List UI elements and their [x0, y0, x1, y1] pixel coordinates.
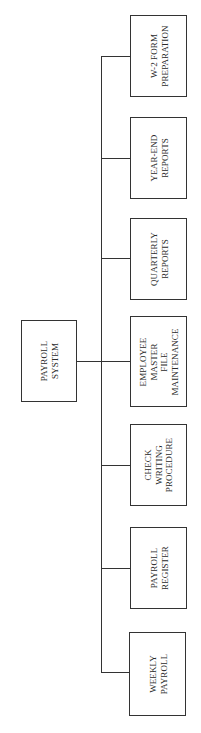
branch-quarterly-reports — [101, 258, 130, 259]
node-label: EMPLOYEE MASTER FILE MAINTENANCE — [138, 328, 180, 395]
node-weekly-payroll: WEEKLY PAYROLL — [129, 632, 186, 716]
node-payroll-system: PAYROLL SYSTEM — [21, 320, 77, 402]
branch-w2-form-preparation — [101, 56, 130, 57]
branch-check-writing-procedure — [101, 465, 130, 466]
node-w2-form-preparation: W-2 FORM PREPARATION — [130, 15, 187, 97]
node-employee-master-file-maintenance: EMPLOYEE MASTER FILE MAINTENANCE — [130, 316, 187, 407]
node-check-writing-procedure: CHECK WRITING PROCEDURE — [130, 424, 187, 506]
node-label: YEAR-END REPORTS — [148, 135, 169, 182]
branch-employee-master-file-maintenance — [101, 361, 130, 362]
node-year-end-reports: YEAR-END REPORTS — [130, 117, 187, 199]
node-label: QUARTERLY REPORTS — [148, 232, 169, 286]
trunk-line — [101, 56, 102, 673]
node-label: WEEKLY PAYROLL — [147, 654, 168, 695]
node-label: PAYROLL SYSTEM — [39, 341, 60, 382]
root-connector — [76, 361, 101, 362]
node-label: W-2 FORM PREPARATION — [148, 25, 169, 86]
node-quarterly-reports: QUARTERLY REPORTS — [130, 218, 187, 300]
node-label: CHECK WRITING PROCEDURE — [143, 438, 175, 492]
branch-payroll-register — [101, 568, 130, 569]
node-label: PAYROLL REGISTER — [148, 546, 169, 590]
branch-year-end-reports — [101, 158, 130, 159]
node-payroll-register: PAYROLL REGISTER — [130, 527, 187, 609]
branch-weekly-payroll — [101, 672, 130, 673]
